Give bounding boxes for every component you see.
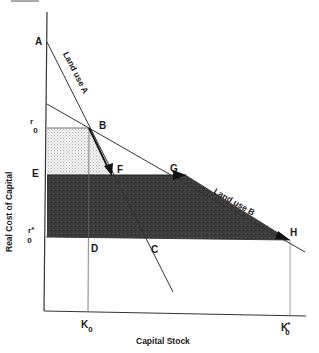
point-d-label: D (91, 244, 98, 254)
diagram-canvas (0, 0, 319, 353)
k0-tick-label: K0 (81, 320, 93, 330)
y-axis (44, 12, 47, 311)
k0-star-tick-label: K*0 (281, 323, 290, 333)
point-a-label: A (35, 37, 42, 47)
r0-star-tick-label: r*0 (28, 228, 32, 238)
point-b-label: B (99, 121, 106, 131)
point-g-label: G (170, 164, 178, 174)
y-axis-title: Real Cost of Capital (4, 172, 14, 252)
x-axis (44, 311, 306, 316)
point-c-label: C (151, 245, 158, 255)
point-h-label: H (290, 228, 297, 238)
point-f-label: F (117, 165, 123, 175)
x-axis-title: Capital Stock (136, 336, 190, 346)
point-e-label: E (32, 169, 39, 179)
r0-tick-label: r0 (30, 121, 38, 131)
